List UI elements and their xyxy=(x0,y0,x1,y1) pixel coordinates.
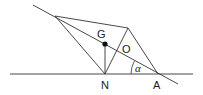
angle-alpha-arc xyxy=(131,61,134,74)
label-G: G xyxy=(97,28,106,40)
point-G-dot xyxy=(102,41,107,46)
edge-right-to-A xyxy=(128,28,158,74)
edge-top xyxy=(55,16,128,28)
label-N: N xyxy=(101,79,109,91)
label-A: A xyxy=(153,79,161,91)
label-alpha: α xyxy=(135,62,141,74)
geometry-diagram: G O N A α xyxy=(0,0,203,95)
label-O: O xyxy=(122,43,131,55)
edge-left-to-N xyxy=(55,16,105,74)
